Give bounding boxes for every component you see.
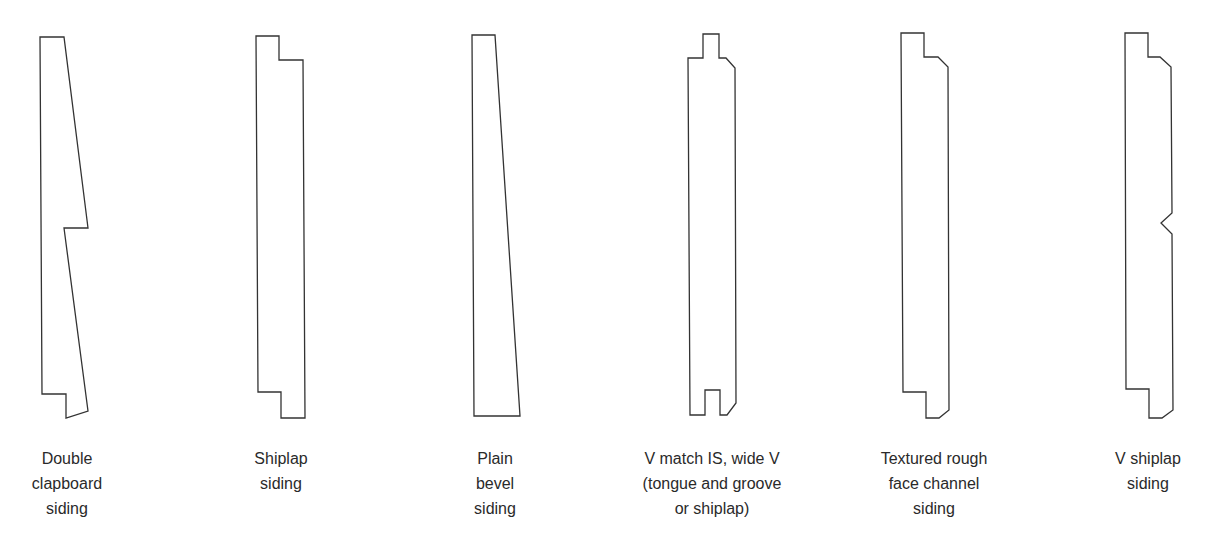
- v-shiplap-label: V shiplap siding: [1048, 446, 1220, 496]
- v-match-wide-v-label: V match IS, wide V (tongue and groove or…: [612, 446, 812, 521]
- label-line: siding: [1048, 471, 1220, 496]
- label-line: bevel: [395, 471, 595, 496]
- label-line: siding: [181, 471, 381, 496]
- plain-bevel-profile: [472, 35, 520, 416]
- textured-channel-label: Textured rough face channel siding: [834, 446, 1034, 521]
- v-match-wide-v-profile: [688, 34, 736, 415]
- shiplap-label: Shiplap siding: [181, 446, 381, 496]
- label-line: siding: [834, 496, 1034, 521]
- double-clapboard-label: Double clapboard siding: [0, 446, 167, 521]
- label-line: Double: [0, 446, 167, 471]
- label-line: clapboard: [0, 471, 167, 496]
- label-line: siding: [0, 496, 167, 521]
- textured-channel-profile: [901, 33, 949, 418]
- label-line: Plain: [395, 446, 595, 471]
- shiplap-profile: [256, 36, 305, 418]
- label-line: Textured rough: [834, 446, 1034, 471]
- label-line: face channel: [834, 471, 1034, 496]
- label-line: siding: [395, 496, 595, 521]
- label-line: (tongue and groove: [612, 471, 812, 496]
- label-line: V shiplap: [1048, 446, 1220, 471]
- plain-bevel-label: Plain bevel siding: [395, 446, 595, 521]
- label-line: or shiplap): [612, 496, 812, 521]
- double-clapboard-profile: [40, 37, 88, 418]
- label-line: V match IS, wide V: [612, 446, 812, 471]
- v-shiplap-profile: [1125, 33, 1173, 418]
- label-line: Shiplap: [181, 446, 381, 471]
